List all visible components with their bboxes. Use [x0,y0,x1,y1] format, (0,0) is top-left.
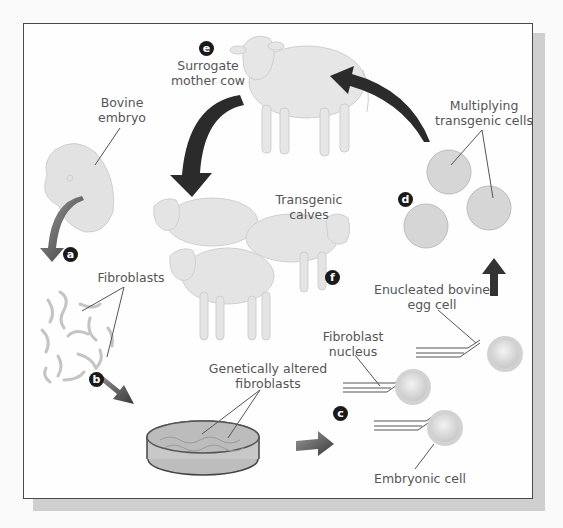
arrow-to-nuclear-transfer [296,431,334,456]
diagram-artwork [0,0,563,528]
step-badge-f: f [325,270,340,285]
step-badge-e: e [199,41,214,56]
label-surrogate-mother-cow: Surrogate mother cow [168,58,248,88]
petri-dish-icon [147,421,259,475]
label-embryonic-cell: Embryonic cell [370,471,470,486]
label-bovine-embryo: Bovine embryo [92,95,152,125]
step-badge-b: b [89,372,104,387]
label-fibroblasts: Fibroblasts [96,270,166,285]
step-badge-d: d [398,192,413,207]
label-transgenic-calves: Transgenic calves [254,192,364,222]
arrow-to-calves [170,95,244,197]
multiplying-cells-icon [404,150,511,248]
step-badge-c: c [333,406,348,421]
label-multiplying-transgenic-cells: Multiplying transgenic cells [434,98,534,128]
label-fibroblast-nucleus: Fibroblast nucleus [318,329,388,359]
step-badge-a: a [63,247,78,262]
surrogate-cow-icon [230,36,368,156]
label-enucleated-egg-cell: Enucleated bovine egg cell [372,282,492,312]
label-genetically-altered-fibroblasts: Genetically altered fibroblasts [208,361,328,391]
fibroblasts-icon [42,292,113,382]
